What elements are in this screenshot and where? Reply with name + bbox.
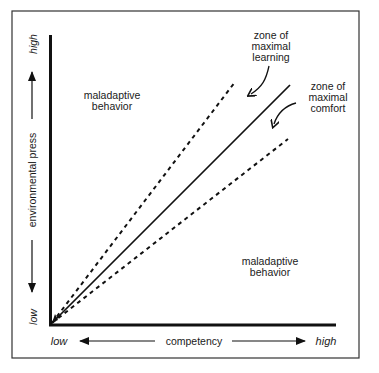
region-label-upper-left: maladaptive behavior	[80, 90, 144, 112]
x-axis-low-label: low	[48, 336, 70, 347]
annotation-zone-learning: zone of maximal learning	[247, 30, 295, 63]
learning-pointer-arrow-icon	[251, 66, 269, 94]
y-axis-high-label: high	[27, 33, 39, 55]
y-axis-title: environmental press	[26, 132, 38, 228]
y-axis-low-label: low	[27, 306, 39, 328]
x-axis-title: competency	[160, 336, 228, 347]
annotation-zone-comfort: zone of maximal comfort	[305, 81, 351, 114]
comfort-pointer-arrow-icon	[274, 103, 296, 124]
x-axis-high-label: high	[313, 336, 339, 347]
annotation-learning-line3: learning	[247, 52, 295, 63]
upper-dashed-line	[52, 82, 235, 323]
region-label-lower-right-line2: behavior	[238, 267, 302, 278]
diagram-svg	[0, 0, 379, 373]
region-label-lower-right: maladaptive behavior	[238, 256, 302, 278]
annotation-comfort-line3: comfort	[305, 103, 351, 114]
diagram-canvas: high environmental press low low compete…	[0, 0, 379, 373]
solid-adaptation-line	[52, 85, 290, 323]
outer-frame	[12, 11, 359, 358]
region-label-upper-left-line2: behavior	[80, 101, 144, 112]
